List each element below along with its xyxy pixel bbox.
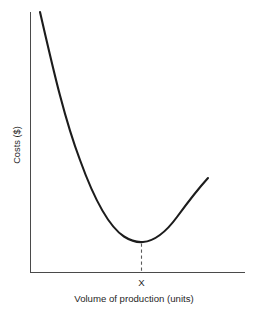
x-axis-title: Volume of production (units) (74, 293, 193, 304)
chart-plot-area: Costs ($) X Volume of production (units) (0, 0, 257, 310)
average-cost-curve (40, 12, 208, 242)
y-axis-title: Costs ($) (12, 126, 22, 164)
x-axis-tick-label-x: X (138, 277, 145, 288)
cost-curve-chart: Costs ($) X Volume of production (units) (0, 0, 257, 310)
